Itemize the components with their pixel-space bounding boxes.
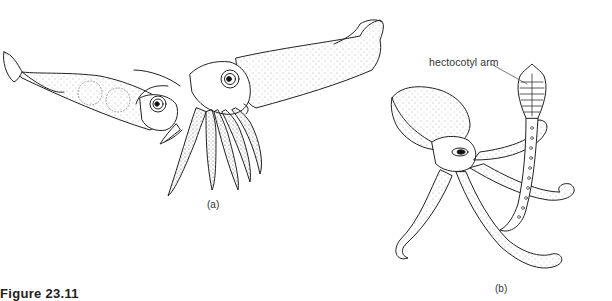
octopus-drawing [391,64,574,268]
hectocotyl-arm-label: hectocotyl arm [429,56,499,68]
panel-label-b: (b) [495,283,507,294]
squid-drawing [3,20,383,196]
panel-label-a: (a) [207,199,219,210]
figure-caption: Figure 23.11 [0,286,79,301]
